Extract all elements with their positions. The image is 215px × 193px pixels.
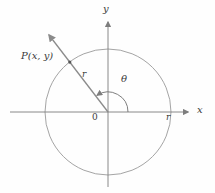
angle-theta-label: θ xyxy=(121,74,127,84)
radius-x-axis-label: r xyxy=(166,113,170,122)
radius-ray-label: r xyxy=(82,70,86,79)
y-axis-label: y xyxy=(103,4,109,14)
point-p-label: P(x, y) xyxy=(21,51,53,61)
origin-label: 0 xyxy=(92,113,98,122)
x-axis-label: x xyxy=(197,105,203,115)
diagram-canvas xyxy=(0,0,215,193)
point-p-dot xyxy=(68,61,71,64)
trig-circle-figure: y x P(x, y) r θ 0 r xyxy=(0,0,215,193)
angle-arc xyxy=(97,92,128,112)
